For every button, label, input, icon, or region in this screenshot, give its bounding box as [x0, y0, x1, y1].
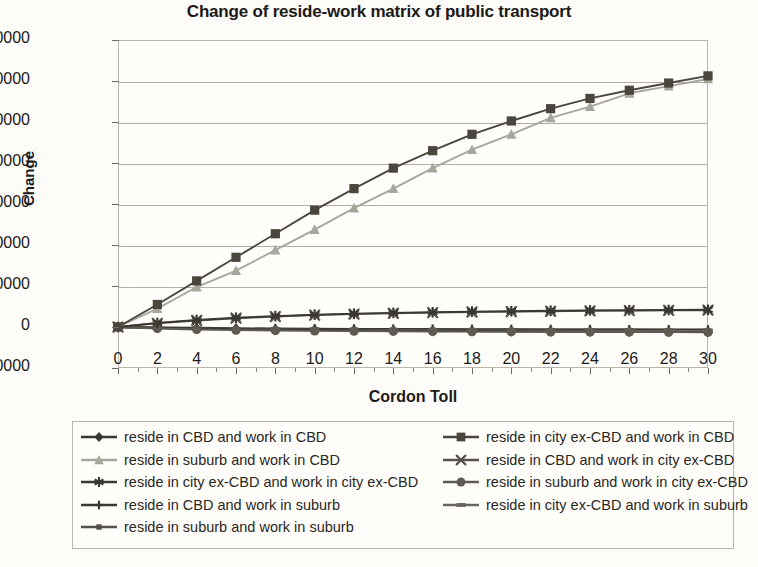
y-tick-text: 100000 [0, 111, 30, 129]
x-tick-mark [256, 368, 257, 372]
marker-square [271, 229, 280, 238]
y-tick-text: 40000 [0, 234, 30, 252]
legend-marker-icon [441, 497, 481, 513]
marker-circle [546, 327, 555, 336]
marker-square [467, 130, 476, 139]
legend: reside in CBD and work in CBDreside in s… [72, 421, 734, 549]
y-tick-text: 60000 [0, 193, 30, 211]
marker-triangle [231, 265, 241, 275]
legend-item[interactable]: reside in city ex-CBD and work in city e… [79, 471, 418, 493]
legend-marker-icon [441, 452, 481, 468]
marker-circle [271, 326, 280, 335]
marker-diamond [94, 432, 103, 442]
legend-item[interactable]: reside in suburb and work in city ex-CBD [441, 471, 748, 493]
x-tick-mark [492, 368, 493, 372]
marker-square [546, 104, 555, 113]
x-tick-mark [472, 368, 473, 374]
y-tick-mark [112, 245, 119, 246]
x-tick-mark [334, 368, 335, 372]
chart-title: Change of reside-work matrix of public t… [0, 2, 758, 22]
legend-item[interactable]: reside in suburb and work in CBD [79, 449, 340, 471]
x-tick-mark [354, 368, 355, 374]
marker-circle [467, 327, 476, 336]
y-tick-mark [112, 286, 119, 287]
x-tick-label: 26 [614, 350, 644, 368]
legend-marker-icon [79, 519, 119, 535]
legend-label: reside in CBD and work in CBD [124, 429, 326, 445]
marker-triangle [270, 245, 280, 255]
legend-marker-icon [441, 474, 481, 490]
marker-circle [349, 326, 358, 335]
marker-circle [457, 478, 466, 487]
marker-triangle [428, 163, 438, 173]
x-tick-mark [315, 368, 316, 374]
series-layer [118, 40, 708, 368]
marker-circle [664, 327, 673, 336]
marker-plus [95, 500, 104, 509]
y-tick-text: 80000 [0, 152, 30, 170]
legend-item[interactable]: reside in CBD and work in CBD [79, 426, 326, 448]
y-tick-text: 20000 [0, 275, 30, 293]
x-tick-mark [236, 368, 237, 374]
y-tick-mark [112, 163, 119, 164]
marker-triangle [349, 203, 359, 213]
x-tick-mark [393, 368, 394, 374]
y-tick-mark [112, 122, 119, 123]
x-tick-mark [570, 368, 571, 372]
x-tick-mark [649, 368, 650, 372]
marker-square [703, 71, 712, 80]
x-tick-mark [531, 368, 532, 372]
x-tick-mark [708, 368, 709, 374]
y-tick-mark [112, 40, 119, 41]
legend-marker-icon [79, 497, 119, 513]
marker-circle [192, 325, 201, 334]
x-tick-mark [669, 368, 670, 374]
marker-square [231, 253, 240, 262]
x-tick-label: 14 [378, 350, 408, 368]
x-tick-mark [118, 368, 119, 374]
legend-item[interactable]: reside in city ex-CBD and work in suburb [441, 494, 748, 516]
legend-label: reside in suburb and work in suburb [124, 519, 354, 535]
x-tick-label: 28 [654, 350, 684, 368]
x-tick-label: 0 [103, 350, 133, 368]
legend-label: reside in city ex-CBD and work in suburb [486, 497, 748, 513]
x-axis-title: Cordon Toll [118, 388, 708, 406]
legend-item[interactable]: reside in city ex-CBD and work in CBD [441, 426, 734, 448]
legend-item[interactable]: reside in suburb and work in suburb [79, 516, 354, 538]
marker-circle [231, 325, 240, 334]
legend-label: reside in suburb and work in CBD [124, 452, 340, 468]
legend-item[interactable]: reside in CBD and work in suburb [79, 494, 340, 516]
marker-circle [389, 327, 398, 336]
x-tick-label: 8 [260, 350, 290, 368]
marker-square [507, 116, 516, 125]
x-tick-label: 10 [300, 350, 330, 368]
legend-marker-icon [79, 452, 119, 468]
y-tick-text: -20000 [0, 357, 30, 375]
legend-item[interactable]: reside in CBD and work in city ex-CBD [441, 449, 734, 471]
marker-square [664, 78, 673, 87]
x-tick-label: 22 [536, 350, 566, 368]
legend-label: reside in city ex-CBD and work in city e… [124, 474, 418, 490]
marker-circle [507, 327, 516, 336]
marker-circle [585, 327, 594, 336]
marker-triangle [388, 183, 398, 193]
marker-square [192, 276, 201, 285]
marker-square [625, 86, 634, 95]
x-tick-label: 12 [339, 350, 369, 368]
legend-marker-icon [79, 474, 119, 490]
x-tick-mark [452, 368, 453, 372]
marker-square [585, 94, 594, 103]
y-tick-mark [112, 327, 119, 328]
x-tick-label: 16 [418, 350, 448, 368]
legend-label: reside in CBD and work in city ex-CBD [486, 452, 734, 468]
y-tick-mark [112, 204, 119, 205]
marker-square [389, 164, 398, 173]
x-tick-mark [216, 368, 217, 372]
x-tick-mark [138, 368, 139, 372]
x-tick-mark [177, 368, 178, 372]
legend-marker-icon [441, 429, 481, 445]
marker-circle [625, 327, 634, 336]
x-tick-mark [688, 368, 689, 372]
x-tick-label: 20 [496, 350, 526, 368]
marker-dash [456, 503, 465, 507]
